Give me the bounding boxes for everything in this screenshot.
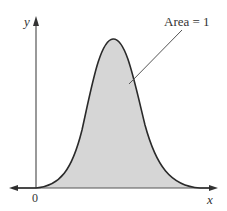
origin-label: 0 bbox=[32, 191, 38, 205]
density-curve-diagram: y x 0 Area = 1 bbox=[0, 0, 227, 211]
annotation-leader-line bbox=[129, 30, 182, 84]
x-axis-label: x bbox=[206, 192, 213, 207]
area-annotation: Area = 1 bbox=[164, 14, 210, 29]
x-axis-right-arrow-icon bbox=[209, 185, 218, 191]
shaded-area bbox=[36, 39, 200, 188]
y-axis-arrow-icon bbox=[33, 16, 39, 26]
diagram-svg: y x 0 Area = 1 bbox=[0, 0, 227, 211]
y-axis-label: y bbox=[22, 14, 30, 29]
